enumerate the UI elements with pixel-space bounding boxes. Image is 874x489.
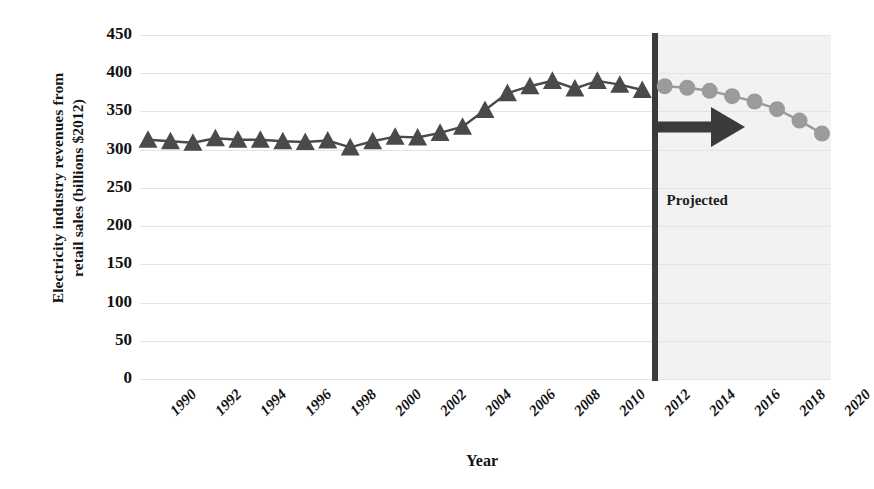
- y-axis-title-line1: Electricity industry revenues from: [49, 73, 66, 304]
- x-axis-tick-label: 1992: [212, 386, 245, 419]
- data-point-marker-triangle: [565, 79, 584, 97]
- gridline: [140, 379, 830, 380]
- y-axis-tick-label: 150: [76, 253, 132, 273]
- x-axis-tick-label: 1996: [302, 386, 335, 419]
- x-axis-tick-label: 1990: [167, 386, 200, 419]
- y-axis-tick-label: 300: [76, 139, 132, 159]
- projected-annotation-label: Projected: [667, 192, 728, 209]
- x-axis-tick-label: 2014: [706, 386, 739, 419]
- data-point-marker-circle: [679, 80, 695, 96]
- data-point-marker-circle: [814, 126, 830, 142]
- data-point-marker-triangle: [543, 71, 562, 89]
- y-axis-tick-label: 0: [76, 368, 132, 388]
- y-axis-tick-label: 250: [76, 177, 132, 197]
- data-point-marker-triangle: [498, 84, 517, 102]
- x-axis-tick-label: 2018: [796, 386, 829, 419]
- y-axis-tick-label: 100: [76, 292, 132, 312]
- x-axis-tick-label: 2020: [841, 386, 874, 419]
- y-axis-tick-label: 450: [76, 24, 132, 44]
- data-point-marker-triangle: [453, 117, 472, 135]
- x-axis-tick-label: 1998: [347, 386, 380, 419]
- x-axis-tick-label: 2010: [616, 386, 649, 419]
- x-axis-tick-label: 2002: [436, 386, 469, 419]
- x-axis-title: Year: [0, 452, 844, 470]
- x-axis-tick-label: 2008: [571, 386, 604, 419]
- data-point-marker-triangle: [588, 71, 607, 89]
- x-axis-title-text: Year: [466, 452, 498, 470]
- data-point-marker-circle: [657, 78, 673, 94]
- y-axis-tick-label: 350: [76, 100, 132, 120]
- arrow-right-icon: [655, 107, 745, 147]
- projected-arrow: [649, 97, 799, 157]
- y-axis-tick-label: 50: [76, 330, 132, 350]
- x-axis-tick-label: 2004: [481, 386, 514, 419]
- x-axis-tick-label: 2012: [661, 386, 694, 419]
- data-point-marker-triangle: [476, 100, 495, 118]
- x-axis-tick-label: 2016: [751, 386, 784, 419]
- x-axis-tick-label: 1994: [257, 386, 290, 419]
- y-axis-tick-label: 200: [76, 215, 132, 235]
- x-axis-tick-label: 2000: [391, 386, 424, 419]
- plot-area: 450400350300250200150100500 Projected: [140, 35, 830, 379]
- x-axis-tick-label: 2006: [526, 386, 559, 419]
- y-axis-tick-label: 400: [76, 62, 132, 82]
